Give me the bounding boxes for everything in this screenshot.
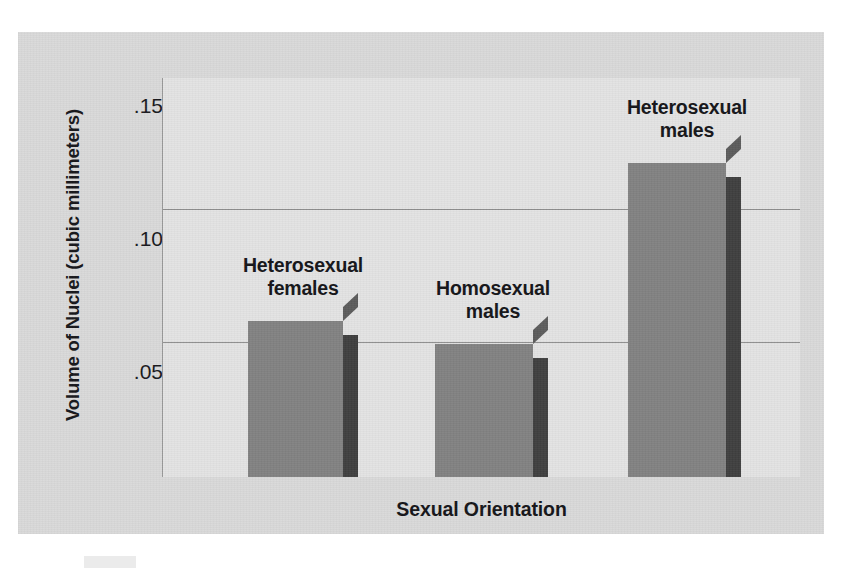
chart-panel: Volume of Nuclei (cubic millimeters) .15… <box>18 32 824 534</box>
y-tick-label-0.15: .15 <box>105 94 163 118</box>
bar-label-line2: females <box>218 277 388 300</box>
bar-side-face <box>343 335 358 477</box>
bar-side-face <box>533 358 548 477</box>
bar-label-line2: males <box>602 119 772 142</box>
bar-heterosexual-males[interactable] <box>628 163 726 477</box>
bar-heterosexual-females[interactable] <box>248 321 343 477</box>
bar-label-heterosexual-females: Heterosexual females <box>218 254 388 300</box>
bar-label-line1: Homosexual <box>408 277 578 300</box>
bar-label-homosexual-males: Homosexual males <box>408 277 578 323</box>
y-axis-tick-labels: .15 .10 .05 <box>108 32 163 534</box>
bar-front-face <box>628 163 726 477</box>
y-axis-title: Volume of Nuclei (cubic millimeters) <box>62 55 84 475</box>
bar-side-face <box>726 177 741 477</box>
bar-front-face <box>248 321 343 477</box>
bar-label-heterosexual-males: Heterosexual males <box>602 96 772 142</box>
bar-front-face <box>435 344 533 477</box>
y-tick-label-0.10: .10 <box>105 227 163 251</box>
bar-label-line1: Heterosexual <box>218 254 388 277</box>
scan-artifact <box>84 556 136 568</box>
y-tick-label-0.05: .05 <box>105 360 163 384</box>
x-axis-title: Sexual Orientation <box>163 498 800 521</box>
figure-container: Volume of Nuclei (cubic millimeters) .15… <box>0 0 843 578</box>
bar-homosexual-males[interactable] <box>435 344 533 477</box>
bar-label-line1: Heterosexual <box>602 96 772 119</box>
bar-label-line2: males <box>408 300 578 323</box>
